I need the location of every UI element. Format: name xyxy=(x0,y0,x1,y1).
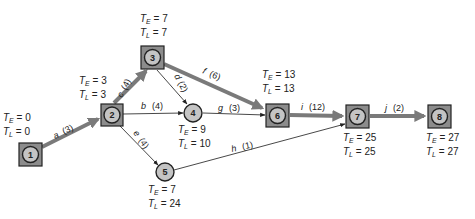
node-7-tl: TL = 25 xyxy=(343,146,376,158)
activity-label-i: i(12) xyxy=(301,102,325,112)
node-8-te: TE = 27 xyxy=(426,132,460,144)
node-1-tl: TL = 0 xyxy=(3,126,30,138)
activity-label-b: b(4) xyxy=(141,101,163,111)
node-3: 3 xyxy=(141,46,164,69)
activity-label-g: g(3) xyxy=(218,103,240,113)
node-4-tl: TL = 10 xyxy=(178,138,211,150)
diagram-svg: a(3) c(4) b(4) d(2) e(4) f(6) g(3) h(1) … xyxy=(0,0,475,219)
node-1-number: 1 xyxy=(28,150,33,160)
node-2-tl: TL = 3 xyxy=(79,89,106,101)
activity-label-f: f(6) xyxy=(201,66,222,83)
node-5: 5 xyxy=(156,163,174,181)
node-2: 2 xyxy=(101,104,123,126)
node-3-te: TE = 7 xyxy=(140,13,168,25)
node-4-number: 4 xyxy=(190,108,195,118)
arrow-b xyxy=(123,113,183,114)
arrow-i xyxy=(290,115,342,116)
node-6-te: TE = 13 xyxy=(262,69,296,81)
node-3-tl: TL = 7 xyxy=(140,27,167,39)
node-7: 7 xyxy=(346,105,369,128)
node-4-te: TE = 9 xyxy=(178,124,206,136)
node-7-number: 7 xyxy=(355,112,360,122)
node-6: 6 xyxy=(266,104,289,127)
node-1: 1 xyxy=(19,143,42,166)
pert-network-diagram: a(3) c(4) b(4) d(2) e(4) f(6) g(3) h(1) … xyxy=(0,0,475,219)
node-2-te: TE = 3 xyxy=(79,75,107,87)
node-5-tl: TL = 24 xyxy=(148,198,181,210)
node-1-te: TE = 0 xyxy=(3,112,31,124)
activity-label-j: j(2) xyxy=(384,103,404,113)
node-6-number: 6 xyxy=(275,111,280,121)
node-7-te: TE = 25 xyxy=(343,132,377,144)
node-5-te: TE = 7 xyxy=(148,184,176,196)
non-critical-arrows xyxy=(120,70,345,170)
activity-label-e: e(4) xyxy=(131,128,151,150)
node-8-tl: TL = 27 xyxy=(426,146,459,158)
node-8-number: 8 xyxy=(437,112,442,122)
node-8: 8 xyxy=(428,105,451,128)
node-6-tl: TL = 13 xyxy=(262,83,295,95)
arrow-g xyxy=(203,113,265,115)
node-5-number: 5 xyxy=(162,167,167,177)
node-4: 4 xyxy=(184,104,202,122)
node-2-number: 2 xyxy=(109,110,114,120)
node-3-number: 3 xyxy=(150,53,155,63)
